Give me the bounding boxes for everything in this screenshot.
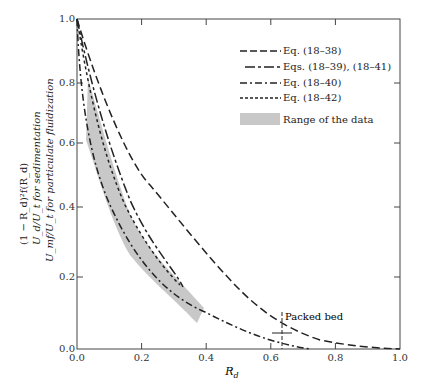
data-range-band (86, 78, 204, 323)
svg-text:1.0: 1.0 (392, 352, 408, 363)
svg-text:0.4: 0.4 (198, 352, 214, 363)
svg-text:U_mf/U_t for particulate fluid: U_mf/U_t for particulate fluidization (44, 78, 56, 262)
svg-text:0.6: 0.6 (59, 137, 75, 148)
svg-text:0.8: 0.8 (59, 77, 75, 88)
x-axis-label: Rd (224, 365, 238, 380)
x-tick-labels: 0.0 0.2 0.4 0.6 0.8 1.0 (69, 352, 408, 363)
svg-text:0.2: 0.2 (59, 271, 75, 282)
svg-text:0.2: 0.2 (134, 352, 150, 363)
y-ticks (77, 83, 400, 277)
svg-text:Eq. (18–38): Eq. (18–38) (283, 45, 341, 56)
packed-bed-label: Packed bed (285, 311, 344, 322)
svg-text:(1 − R_d)²f(R_d): (1 − R_d)²f(R_d) (18, 163, 30, 245)
svg-text:U_d/U_t for sedimentation: U_d/U_t for sedimentation (31, 111, 43, 245)
svg-text:0.0: 0.0 (59, 343, 75, 354)
legend-swatch-range (240, 113, 280, 125)
svg-text:0.4: 0.4 (59, 201, 75, 212)
svg-text:Eq. (18–42): Eq. (18–42) (283, 92, 341, 103)
y-axis-label: (1 − R_d)²f(R_d) U_d/U_t for sedimentati… (18, 78, 56, 262)
legend-labels: Eq. (18–38) Eqs. (18–39), (18–41) Eq. (1… (283, 45, 391, 125)
y-tick-labels: 0.0 0.2 0.4 0.6 0.8 1.0 (59, 13, 75, 354)
svg-text:Eqs. (18–39), (18–41): Eqs. (18–39), (18–41) (283, 61, 391, 72)
chart: 0.0 0.2 0.4 0.6 0.8 1.0 0.0 0.2 0.4 0.6 … (0, 0, 422, 390)
svg-text:0.8: 0.8 (327, 352, 343, 363)
svg-text:0.6: 0.6 (263, 352, 279, 363)
svg-text:1.0: 1.0 (59, 13, 75, 24)
svg-text:Range of the data: Range of the data (283, 114, 373, 125)
svg-text:Eq. (18–40): Eq. (18–40) (283, 77, 341, 88)
legend (240, 51, 281, 98)
